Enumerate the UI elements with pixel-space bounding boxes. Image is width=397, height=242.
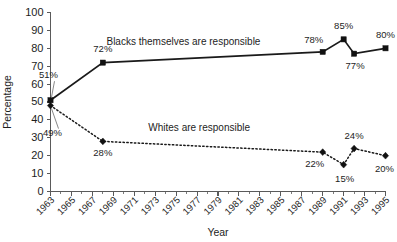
x-tick-label: 1985 xyxy=(264,194,287,217)
x-tick-label: 1983 xyxy=(243,194,266,217)
data-point-label: 51% xyxy=(39,69,59,80)
chart-figure: 0102030405060708090100196319651967196919… xyxy=(0,0,397,242)
y-tick-label: 80 xyxy=(31,42,43,54)
data-point-label: 15% xyxy=(335,173,355,184)
x-tick-label: 1979 xyxy=(201,194,224,217)
label-leader-line xyxy=(52,81,55,97)
data-point-label: 49% xyxy=(43,127,63,138)
x-tick-label: 1977 xyxy=(180,194,203,217)
label-leader-line xyxy=(52,109,59,129)
x-tick-label: 1971 xyxy=(117,194,140,217)
x-tick-label: 1987 xyxy=(285,194,308,217)
x-tick-label: 1981 xyxy=(222,194,245,217)
x-tick-label: 1993 xyxy=(348,194,371,217)
data-point-label: 24% xyxy=(345,130,365,141)
data-point-label: 20% xyxy=(375,163,395,174)
y-tick-label: 90 xyxy=(31,24,43,36)
x-tick-label: 1969 xyxy=(96,194,119,217)
y-tick-label: 30 xyxy=(31,131,43,143)
y-tick-label: 10 xyxy=(31,167,43,179)
y-tick-label: 40 xyxy=(31,113,43,125)
x-tick-label: 1963 xyxy=(34,194,57,217)
line-chart-canvas: 0102030405060708090100196319651967196919… xyxy=(0,0,397,242)
data-point-marker xyxy=(383,46,388,51)
data-point-marker xyxy=(47,102,53,109)
data-point-label: 22% xyxy=(305,158,325,169)
x-tick-label: 1967 xyxy=(76,194,99,217)
x-tick-label: 1975 xyxy=(159,194,182,217)
data-point-label: 78% xyxy=(304,34,324,45)
data-point-marker xyxy=(100,138,106,145)
data-point-marker xyxy=(382,152,388,159)
y-tick-label: 100 xyxy=(25,6,43,18)
data-point-label: 77% xyxy=(346,60,366,71)
x-tick-label: 1989 xyxy=(306,194,329,217)
series-annotation-2: Whites are responsible xyxy=(148,122,250,133)
data-point-marker xyxy=(320,149,326,156)
data-point-marker xyxy=(320,49,325,54)
x-tick-label: 1995 xyxy=(369,194,392,217)
y-tick-label: 50 xyxy=(31,95,43,107)
y-tick-label: 20 xyxy=(31,149,43,161)
x-tick-label: 1991 xyxy=(327,194,350,217)
x-axis-title: Year xyxy=(207,226,229,238)
x-tick-label: 1965 xyxy=(55,194,78,217)
data-point-label: 80% xyxy=(376,29,396,40)
data-point-marker xyxy=(341,37,346,42)
data-point-marker xyxy=(351,51,356,56)
y-axis-title: Percentage xyxy=(1,75,13,129)
data-point-label: 28% xyxy=(93,147,113,158)
x-tick-label: 1973 xyxy=(138,194,161,217)
data-point-label: 85% xyxy=(334,20,354,31)
series-annotation-1: Blacks themselves are responsible xyxy=(106,36,260,47)
y-tick-label: 0 xyxy=(37,185,43,197)
data-point-marker xyxy=(100,60,105,65)
